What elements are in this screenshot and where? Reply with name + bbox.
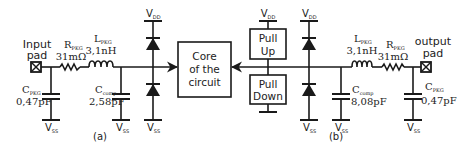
- rpkg-left-value: 31mΩ: [56, 51, 87, 62]
- capacitor-cpkg-left-icon: [42, 67, 60, 120]
- caption-a: (a): [93, 131, 107, 142]
- pull-up-label-line2: Up: [261, 45, 276, 57]
- io-pad-circuit-diagram: Input pad RPKG 31mΩ LPKG 3,1nH CPKG 0,47…: [0, 0, 463, 148]
- lpkg-left-value: 3,1nH: [85, 45, 116, 56]
- vss-label-right-diode: VSS: [303, 122, 316, 134]
- vss-label-left-diode: VSS: [147, 122, 160, 134]
- output-pad-label-line2: pad: [423, 47, 444, 60]
- cpkg-left-label: CPKG: [22, 84, 41, 96]
- vss-label-left-ccomp: VSS: [116, 122, 129, 134]
- core-label-line1: Core: [192, 50, 216, 62]
- rpkg-right-label: RPKG: [386, 39, 405, 51]
- vdd-label-driver: VDD: [261, 8, 276, 20]
- input-pad-icon: [31, 62, 41, 72]
- ccomp-right-value: 8,08pF: [351, 96, 387, 107]
- cpkg-left-value: 0,47pF: [16, 96, 52, 107]
- lpkg-right-value: 3,1nH: [346, 45, 377, 56]
- inductor-lpkg-right-icon: [352, 61, 372, 67]
- esd-diodes-left-icon: [144, 21, 162, 120]
- cpkg-right-label: CPKG: [425, 81, 444, 93]
- capacitor-cpkg-right-icon: [404, 67, 422, 120]
- rpkg-right-value: 31mΩ: [378, 51, 409, 62]
- core-label-line2: of the: [189, 63, 220, 75]
- pull-down-label-line1: Pull: [259, 78, 278, 90]
- resistor-rpkg-right-icon: [382, 64, 404, 70]
- pull-up-label-line1: Pull: [259, 32, 278, 44]
- capacitor-ccomp-right-icon: [332, 67, 350, 120]
- pull-down-label-line2: Down: [253, 90, 283, 102]
- esd-diodes-right-icon: [300, 21, 318, 120]
- resistor-rpkg-left-icon: [60, 64, 80, 70]
- rpkg-left-label: RPKG: [64, 39, 83, 51]
- input-pad-label-line2: pad: [27, 49, 48, 62]
- core-label-line3: circuit: [188, 76, 220, 88]
- vdd-label-left: VDD: [146, 8, 161, 20]
- lpkg-right-label: LPKG: [354, 33, 372, 45]
- cpkg-right-value: 0,47pF: [421, 95, 457, 106]
- vdd-label-right: VDD: [302, 8, 317, 20]
- caption-b: (b): [329, 131, 343, 142]
- vss-label-right-cpkg: VSS: [407, 122, 420, 134]
- ccomp-left-value: 2,58pF: [89, 96, 125, 107]
- lpkg-left-label: LPKG: [94, 33, 112, 45]
- output-pad-icon: [421, 62, 431, 72]
- vss-label-left-cpkg: VSS: [45, 122, 58, 134]
